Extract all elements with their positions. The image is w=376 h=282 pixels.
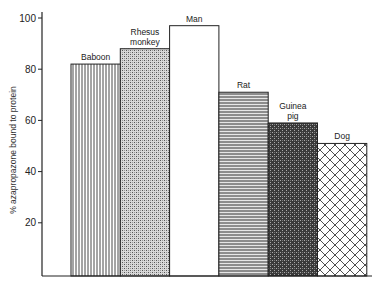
bar-label-dog: Dog: [334, 131, 350, 141]
bar-chart: BaboonRhesusmonkeyManRatGuineapigDog 204…: [0, 0, 376, 282]
bar-dog: [318, 143, 367, 276]
bar-guinea-pig: [268, 123, 317, 276]
bar-baboon: [71, 64, 120, 276]
y-tick-label-40: 40: [25, 166, 37, 177]
bar-label-man: Man: [186, 14, 203, 24]
bar-label-rat: Rat: [237, 80, 251, 90]
y-axis-label: % azapropazone bound to protein: [8, 86, 18, 214]
y-tick-label-80: 80: [25, 64, 37, 75]
bar-label-guinea-pig-line-2: pig: [287, 111, 299, 121]
bars-group: [71, 26, 367, 276]
y-ticks-group: 20406080100: [19, 13, 42, 229]
y-tick-label-60: 60: [25, 115, 37, 126]
bar-man: [170, 26, 219, 276]
bar-rat: [219, 92, 268, 276]
bar-label-guinea-pig-line-1: Guinea: [279, 101, 307, 111]
y-tick-label-100: 100: [19, 13, 36, 24]
bar-label-baboon: Baboon: [81, 52, 111, 62]
y-tick-label-20: 20: [25, 217, 37, 228]
bar-rhesus-monkey: [120, 49, 169, 276]
bar-label-rhesus-monkey-line-1: Rhesus: [131, 27, 160, 37]
bar-label-rhesus-monkey-line-2: monkey: [130, 37, 161, 47]
